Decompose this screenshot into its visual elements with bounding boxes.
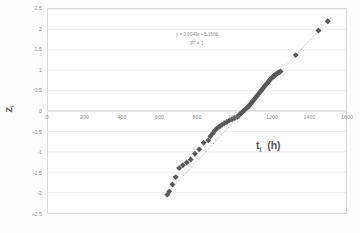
y-tick-label: 1.5 bbox=[18, 46, 42, 52]
y-tick-label: 1 bbox=[18, 67, 42, 73]
x-tick-label: 800 bbox=[193, 114, 202, 120]
x-tick-label: 1000 bbox=[229, 114, 241, 120]
y-tick-label: -2.5 bbox=[18, 211, 42, 217]
x-tick-label: 1600 bbox=[341, 114, 353, 120]
x-tick-label: 400 bbox=[118, 114, 127, 120]
y-tick-label: 0.5 bbox=[18, 87, 42, 93]
y-tick-label: 2 bbox=[18, 26, 42, 32]
x-axis-title-subscript: i bbox=[259, 146, 261, 153]
x-tick-label: 200 bbox=[80, 114, 89, 120]
x-tick-label: 1200 bbox=[266, 114, 278, 120]
data-point bbox=[325, 18, 331, 24]
y-tick-label: -2 bbox=[18, 190, 42, 196]
trendline-equation-label: y = 0.0049x - 5.1508 R2 = 1 bbox=[152, 32, 242, 47]
scatter-chart: 2.521.510.50-0.5-1-1.5-2-2.5 02004006008… bbox=[0, 0, 360, 233]
x-tick-label: 600 bbox=[155, 114, 164, 120]
y-tick-label: -1.5 bbox=[18, 170, 42, 176]
trendline-equation-line: y = 0.0049x - 5.1508 bbox=[152, 32, 242, 39]
x-tick-label: 0 bbox=[46, 114, 49, 120]
data-point bbox=[169, 181, 175, 187]
y-tick-label: -0.5 bbox=[18, 129, 42, 135]
y-tick-label: 0 bbox=[18, 108, 42, 114]
trendline-r-squared-line: R2 = 1 bbox=[152, 39, 242, 47]
data-point bbox=[173, 174, 179, 180]
x-axis-title-unit: (h) bbox=[267, 139, 280, 151]
y-tick-label: -1 bbox=[18, 149, 42, 155]
y-axis-title-subscript: i bbox=[9, 105, 15, 107]
y-axis-title: Zi bbox=[4, 105, 16, 112]
y-tick-label: 2.5 bbox=[18, 5, 42, 11]
data-point bbox=[196, 146, 202, 152]
x-axis-title: ti (h) bbox=[256, 139, 281, 153]
y-axis-title-base: Z bbox=[4, 107, 14, 113]
x-tick-label: 1400 bbox=[304, 114, 316, 120]
